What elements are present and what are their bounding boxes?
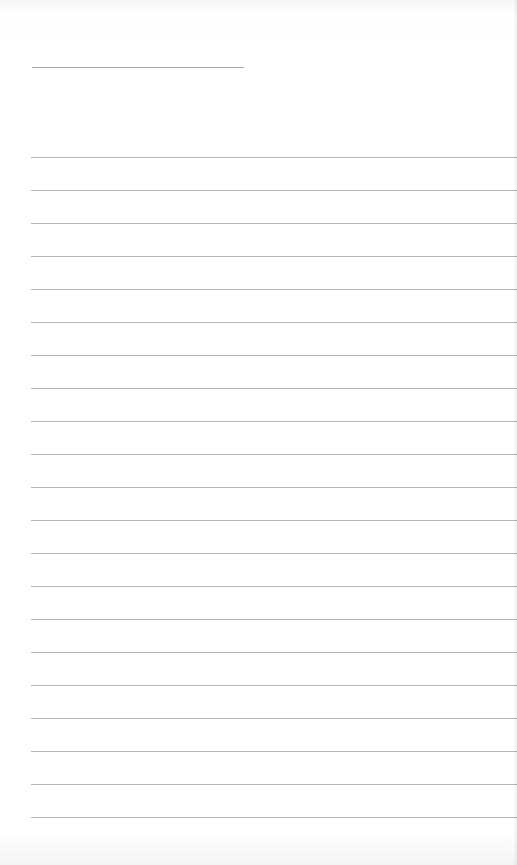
ruled-line [31,388,517,389]
ruled-line [31,157,517,158]
ruled-line [31,289,517,290]
ruled-line [31,487,517,488]
ruled-line [31,784,517,785]
ruled-line [31,553,517,554]
ruled-line [31,520,517,521]
ruled-line [31,223,517,224]
ruled-line [31,421,517,422]
ruled-lines [31,0,517,865]
ruled-line [31,586,517,587]
ruled-line [31,355,517,356]
ruled-line [31,652,517,653]
ruled-line [31,619,517,620]
ruled-line [31,454,517,455]
page-edge-shadow [513,0,517,865]
ruled-line [31,322,517,323]
notepad-page [0,0,517,865]
ruled-line [31,718,517,719]
ruled-line [31,190,517,191]
ruled-line [31,685,517,686]
ruled-line [31,817,517,818]
ruled-line [31,751,517,752]
ruled-line [31,256,517,257]
